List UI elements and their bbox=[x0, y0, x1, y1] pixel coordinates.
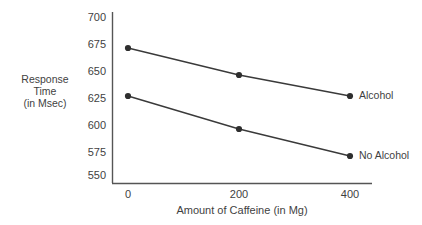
y-axis-title-line-2: Time bbox=[34, 85, 57, 97]
y-tick-label-575: 575 bbox=[88, 146, 106, 158]
y-tick-label-600: 600 bbox=[88, 119, 106, 131]
data-point-alcohol-400 bbox=[347, 93, 353, 99]
y-tick-label-650: 650 bbox=[88, 65, 106, 77]
data-point-no-alcohol-200 bbox=[236, 126, 242, 132]
x-tick-label-200: 200 bbox=[230, 188, 248, 200]
data-point-no-alcohol-400 bbox=[347, 153, 353, 159]
series-label-alcohol: Alcohol bbox=[359, 89, 393, 101]
x-tick-label-400: 400 bbox=[341, 188, 359, 200]
line-chart-canvas: 700 675 650 625 600 575 550 0 200 400 Am… bbox=[0, 0, 422, 225]
data-point-alcohol-0 bbox=[125, 45, 131, 51]
y-tick-label-550: 550 bbox=[88, 169, 106, 181]
data-point-no-alcohol-0 bbox=[125, 93, 131, 99]
y-axis-title-line-3: (in Msec) bbox=[23, 97, 66, 109]
x-axis-title: Amount of Caffeine (in Mg) bbox=[176, 204, 307, 216]
y-tick-label-625: 625 bbox=[88, 92, 106, 104]
x-tick-label-0: 0 bbox=[125, 188, 131, 200]
y-tick-label-700: 700 bbox=[88, 11, 106, 23]
y-axis-title-line-1: Response bbox=[21, 73, 68, 85]
series-label-no-alcohol: No Alcohol bbox=[359, 149, 409, 161]
chart-figure: 700 675 650 625 600 575 550 0 200 400 Am… bbox=[0, 0, 422, 225]
data-point-alcohol-200 bbox=[236, 72, 242, 78]
y-tick-label-675: 675 bbox=[88, 38, 106, 50]
